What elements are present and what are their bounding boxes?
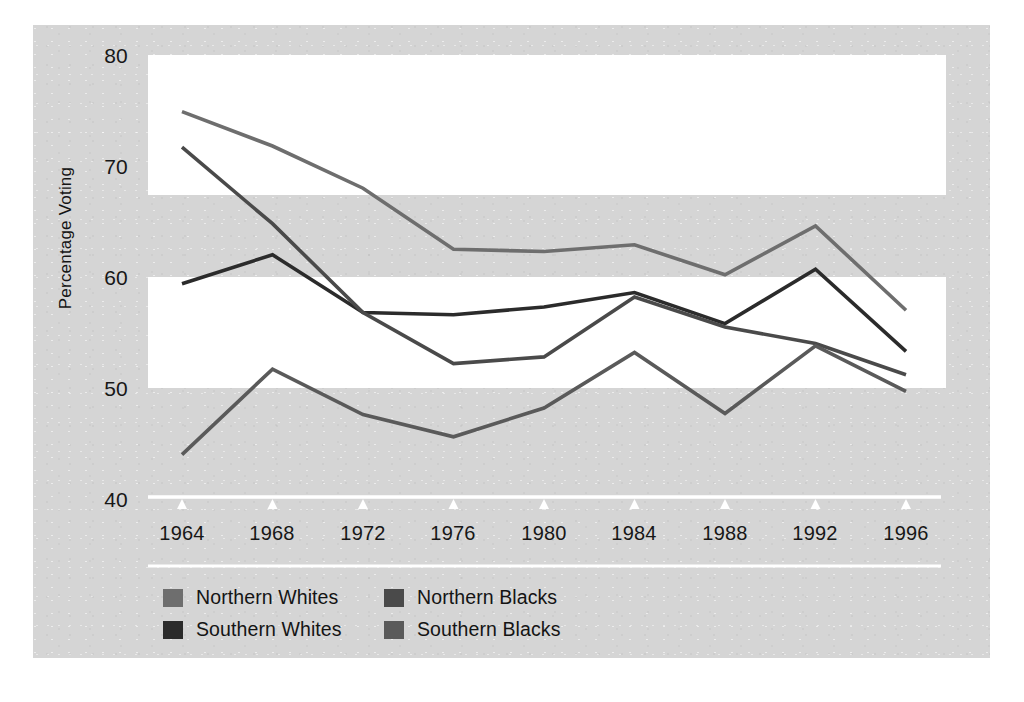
chart-legend: Northern Whites Northern Blacks Southern… bbox=[163, 586, 663, 648]
legend-item-southern-whites[interactable]: Southern Whites bbox=[163, 618, 342, 641]
legend-label-southern-blacks: Southern Blacks bbox=[417, 618, 561, 641]
x-axis-tickmark bbox=[811, 499, 821, 509]
series-line-southern-blacks bbox=[182, 346, 906, 455]
legend-label-southern-whites: Southern Whites bbox=[196, 618, 342, 641]
series-line-northern-blacks bbox=[182, 147, 906, 375]
x-axis-tickmark bbox=[358, 499, 368, 509]
legend-item-northern-blacks[interactable]: Northern Blacks bbox=[384, 586, 557, 609]
x-axis-tickmark bbox=[449, 499, 459, 509]
legend-item-southern-blacks[interactable]: Southern Blacks bbox=[384, 618, 561, 641]
x-axis-tickmark bbox=[720, 499, 730, 509]
legend-swatch-northern-whites bbox=[163, 589, 183, 607]
x-axis-tickmark bbox=[901, 499, 911, 509]
legend-item-northern-whites[interactable]: Northern Whites bbox=[163, 586, 338, 609]
legend-swatch-southern-blacks bbox=[384, 621, 404, 639]
x-axis-tickmark bbox=[539, 499, 549, 509]
x-axis-tickmark bbox=[177, 499, 187, 509]
legend-swatch-southern-whites bbox=[163, 621, 183, 639]
x-axis-tickmark bbox=[630, 499, 640, 509]
x-axis-tickmarks bbox=[177, 499, 911, 509]
series-line-southern-whites bbox=[182, 255, 906, 352]
legend-swatch-northern-blacks bbox=[384, 589, 404, 607]
data-series-layer bbox=[182, 112, 906, 455]
legend-label-northern-blacks: Northern Blacks bbox=[417, 586, 557, 609]
legend-label-northern-whites: Northern Whites bbox=[196, 586, 338, 609]
chart-figure: 80 70 60 50 40 Percentage Voting 1964 19… bbox=[0, 0, 1024, 702]
x-axis-tickmark bbox=[268, 499, 278, 509]
